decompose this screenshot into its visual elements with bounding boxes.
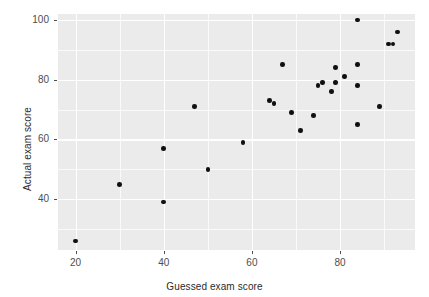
grid-line-minor-horizontal	[58, 110, 415, 111]
y-axis-tick-mark	[54, 80, 57, 81]
data-point	[329, 89, 334, 94]
y-axis-tick-label: 100	[0, 14, 49, 25]
y-axis-tick-mark	[54, 199, 57, 200]
data-point	[355, 18, 360, 23]
grid-line-major-horizontal	[58, 139, 415, 140]
grid-line-minor-vertical	[208, 14, 209, 250]
grid-line-minor-horizontal	[58, 50, 415, 51]
x-axis-tick-label: 60	[222, 257, 282, 268]
plot-panel	[58, 14, 415, 250]
grid-line-major-horizontal	[58, 199, 415, 200]
grid-line-minor-vertical	[120, 14, 121, 250]
x-axis-tick-mark	[164, 251, 165, 254]
x-axis-tick-label: 40	[134, 257, 194, 268]
data-point	[117, 182, 122, 187]
grid-line-major-vertical	[164, 14, 165, 250]
data-point	[272, 101, 277, 106]
data-point	[355, 62, 360, 67]
data-point	[342, 74, 347, 79]
data-point	[311, 113, 316, 118]
data-point	[333, 65, 338, 70]
data-point	[73, 239, 78, 244]
x-axis-tick-label: 20	[46, 257, 106, 268]
data-point	[333, 80, 338, 85]
grid-line-major-horizontal	[58, 20, 415, 21]
grid-line-major-horizontal	[58, 80, 415, 81]
data-point	[161, 200, 166, 205]
x-axis-tick-mark	[252, 251, 253, 254]
grid-line-major-vertical	[340, 14, 341, 250]
grid-line-major-vertical	[76, 14, 77, 250]
data-point	[241, 140, 246, 145]
y-axis-title: Actual exam score	[22, 59, 34, 239]
y-axis-tick-mark	[54, 20, 57, 21]
data-point	[377, 104, 382, 109]
data-point	[320, 80, 325, 85]
grid-line-minor-horizontal	[58, 169, 415, 170]
grid-line-minor-horizontal	[58, 229, 415, 230]
x-axis-tick-mark	[76, 251, 77, 254]
data-point	[395, 30, 400, 35]
x-axis-title: Guessed exam score	[0, 281, 429, 292]
data-point	[280, 62, 285, 67]
grid-line-minor-vertical	[296, 14, 297, 250]
data-point	[298, 128, 303, 133]
grid-line-major-vertical	[252, 14, 253, 250]
data-point	[161, 146, 166, 151]
data-point	[391, 42, 396, 47]
data-point	[289, 110, 294, 115]
y-axis-tick-mark	[54, 139, 57, 140]
data-point	[355, 122, 360, 127]
grid-line-minor-vertical	[384, 14, 385, 250]
data-point	[192, 104, 197, 109]
data-point	[355, 83, 360, 88]
scatter-plot-figure: 406080100 20406080 Actual exam score Gue…	[0, 0, 429, 297]
x-axis-tick-mark	[340, 251, 341, 254]
data-point	[206, 167, 211, 172]
x-axis-tick-label: 80	[310, 257, 370, 268]
